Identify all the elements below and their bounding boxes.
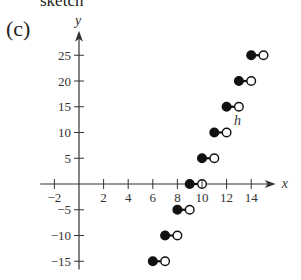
closed-dot-icon [235,77,244,86]
closed-dot-icon [185,180,194,189]
closed-dot-icon [210,128,219,137]
x-tick-label: 12 [220,190,233,205]
closed-dot-icon [173,205,182,214]
y-tick-label: 5 [65,151,72,166]
closed-dot-icon [247,51,256,60]
x-axis-label: x [281,176,289,191]
open-dot-icon [185,205,194,214]
x-tick-label: 10 [196,190,209,205]
closed-dot-icon [149,257,158,266]
x-tick-label: 2 [100,190,107,205]
x-tick-label: 6 [150,190,157,205]
open-dot-icon [247,77,256,86]
y-tick-label: 25 [58,48,71,63]
ticks: −22468101214−15−10−5510152025 [47,48,258,269]
y-tick-label: −15 [51,254,71,269]
y-tick-label: −10 [51,228,71,243]
y-axis-label: y [73,13,82,28]
data-segments [149,51,268,266]
closed-dot-icon [161,231,170,240]
y-tick-label: 15 [58,99,71,114]
y-tick-label: 20 [58,74,71,89]
y-tick-label: −5 [57,202,71,217]
open-dot-icon [173,231,182,240]
closed-dot-icon [198,154,207,163]
x-tick-label: 8 [174,190,181,205]
x-tick-label: 14 [245,190,259,205]
x-tick-label: 4 [125,190,132,205]
y-tick-label: 10 [58,125,71,140]
axes [40,31,275,270]
closed-dot-icon [222,102,231,111]
open-dot-icon [222,128,231,137]
open-dot-icon [161,257,170,266]
function-label: h [234,113,241,128]
open-dot-icon [210,154,219,163]
step-function-chart: −22468101214−15−10−5510152025 x y h [0,0,301,280]
open-dot-icon [235,102,244,111]
open-dot-icon [259,51,268,60]
